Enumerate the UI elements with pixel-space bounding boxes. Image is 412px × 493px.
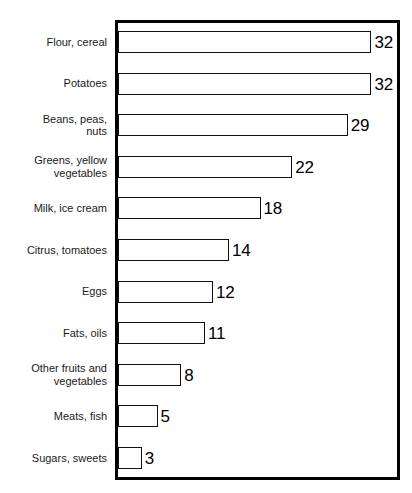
category-label: Potatoes [0,77,107,90]
bar-chart: Flour, cerealPotatoesBeans, peas, nutsGr… [0,0,412,493]
category-label: Fats, oils [0,327,107,340]
category-label-column: Flour, cerealPotatoesBeans, peas, nutsGr… [0,20,112,482]
category-label: Eggs [0,285,107,298]
bar [118,281,213,303]
bar-value-label: 3 [145,450,154,467]
bar-value-label: 29 [351,117,370,134]
bar-row: 11 [115,322,403,344]
bar [118,73,371,95]
bar-value-label: 14 [232,242,251,259]
bar-value-label: 18 [264,200,283,217]
bar [118,197,261,219]
bar [118,405,158,427]
bar-value-label: 8 [184,366,193,383]
bar [118,239,229,261]
bar [118,322,205,344]
category-label: Sugars, sweets [0,452,107,465]
bar-value-label: 22 [295,158,314,175]
bar-value-label: 12 [216,283,235,300]
category-label: Milk, ice cream [0,202,107,215]
chart-title [0,0,412,8]
bar [118,364,181,386]
bar-value-label: 5 [161,408,170,425]
bar-row: 12 [115,281,403,303]
bar-row: 3 [115,447,403,469]
bar [118,156,292,178]
bar-row: 8 [115,364,403,386]
bar-row: 5 [115,405,403,427]
bar-value-label: 11 [208,325,225,342]
category-label: Greens, yellow vegetables [0,154,107,179]
bar-value-label: 32 [374,34,393,51]
category-label: Citrus, tomatoes [0,244,107,257]
category-label: Beans, peas, nuts [0,113,107,138]
bar-row: 32 [115,31,403,53]
bar [118,31,371,53]
bar [118,447,142,469]
category-label: Flour, cereal [0,36,107,49]
category-label: Other fruits and vegetables [0,362,107,387]
bar-row: 18 [115,197,403,219]
category-label: Meats, fish [0,410,107,423]
bar-row: 22 [115,156,403,178]
bar-row: 29 [115,114,403,136]
bar-row: 14 [115,239,403,261]
bar-row: 32 [115,73,403,95]
bar [118,114,348,136]
bars-layer: 3232292218141211853 [115,20,403,483]
bar-value-label: 32 [374,75,393,92]
